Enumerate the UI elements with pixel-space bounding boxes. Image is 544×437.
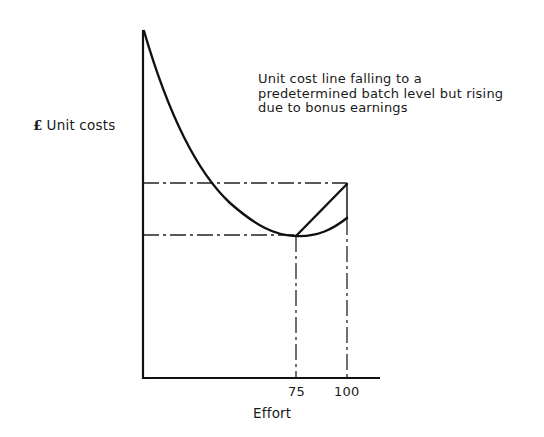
annotation: Unit cost line falling to a predetermine… bbox=[258, 72, 503, 116]
y-axis-label-text: Unit costs bbox=[47, 117, 116, 133]
x-tick-100: 100 bbox=[334, 384, 359, 400]
bonus-earnings-line bbox=[296, 184, 347, 236]
annotation-line-3: due to bonus earnings bbox=[258, 101, 503, 116]
x-tick-75: 75 bbox=[288, 384, 305, 400]
unit-cost-curve bbox=[144, 31, 347, 236]
y-axis-label: £Unit costs bbox=[33, 117, 115, 133]
x-axis-label: Effort bbox=[253, 405, 291, 421]
diagram-canvas bbox=[0, 0, 544, 437]
reference-lines bbox=[143, 183, 347, 378]
annotation-line-2: predetermined batch level but rising bbox=[258, 87, 503, 102]
annotation-line-1: Unit cost line falling to a bbox=[258, 72, 503, 87]
pound-symbol: £ bbox=[33, 117, 43, 133]
